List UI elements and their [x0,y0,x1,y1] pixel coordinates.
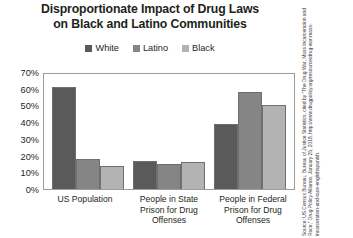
legend-item-latino: Latino [133,43,168,53]
y-axis-tick: 0% [0,185,39,195]
x-axis-label-line: Offenses [129,215,209,226]
x-axis-label-line: Offenses [213,215,293,226]
chart-title-line-2: on Black and Latino Communities [0,17,300,32]
chart-legend: White Latino Black [0,43,300,53]
bar-latino-us-population [76,159,100,189]
y-axis-tick: 40% [0,118,39,128]
y-axis-tick: 20% [0,152,39,162]
legend-item-white: White [85,43,119,53]
legend-label-white: White [95,43,119,53]
legend-swatch-latino [133,45,140,52]
source-note: Source: US Census Bureau, Bureau of Just… [300,0,353,238]
y-axis-tick: 60% [0,85,39,95]
legend-item-black: Black [182,43,214,53]
bar-white-us-population [52,87,76,189]
bar-latino-state-prison [157,164,181,189]
x-axis-label-line: Prison for Drug [213,205,293,216]
legend-swatch-black [182,45,189,52]
y-axis-tick: 30% [0,135,39,145]
y-axis: 70% 60% 50% 40% 30% 20% 10% 0% [0,68,39,195]
chart-title-line-1: Disproportionate Impact of Drug Laws [0,2,300,17]
bar-group-us-population [52,74,124,189]
source-note-text: Source: US Census Bureau, Bureau of Just… [300,0,353,238]
legend-swatch-white [85,45,92,52]
bar-white-federal-prison [214,124,238,189]
chart-figure: Disproportionate Impact of Drug Laws on … [0,0,353,238]
chart-title: Disproportionate Impact of Drug Laws on … [0,2,300,32]
plot-area [43,73,295,190]
x-axis: US Population People in State Prison for… [43,194,295,238]
y-axis-tick: 50% [0,101,39,111]
legend-label-black: Black [192,43,214,53]
bar-black-us-population [100,166,124,189]
x-axis-label-line: Prison for Drug [129,205,209,216]
y-axis-tick: 70% [0,68,39,78]
bar-white-state-prison [133,161,157,189]
x-axis-label-line: US Population [45,194,125,205]
bar-group-federal-prison [214,74,286,189]
x-axis-label-line: People in Federal [213,194,293,205]
x-axis-label-state-prison: People in State Prison for Drug Offenses [129,194,209,226]
bar-latino-federal-prison [238,92,262,189]
y-axis-tick: 10% [0,168,39,178]
x-axis-label-line: People in State [129,194,209,205]
bar-black-state-prison [181,162,205,189]
bar-black-federal-prison [262,105,286,189]
bar-group-state-prison [133,74,205,189]
legend-label-latino: Latino [143,43,168,53]
x-axis-label-us-population: US Population [45,194,125,205]
x-axis-label-federal-prison: People in Federal Prison for Drug Offens… [213,194,293,226]
bars-layer [44,74,294,189]
